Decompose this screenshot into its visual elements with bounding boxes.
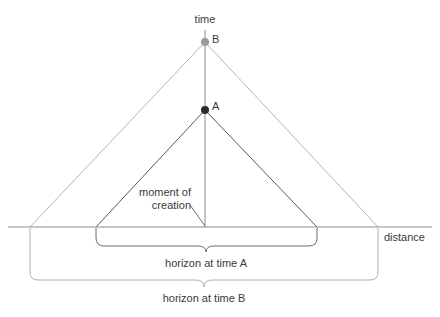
moment-of-creation-annotation: moment of creation	[116, 186, 191, 212]
cone-a-right-edge	[205, 110, 317, 227]
spacetime-horizon-diagram: time distance B A moment of creation hor…	[0, 0, 440, 317]
moment-of-creation-line-2: creation	[116, 199, 191, 212]
point-a-marker	[201, 106, 209, 114]
brace-horizon-time-a	[96, 228, 317, 252]
point-b-label: B	[212, 33, 219, 46]
cone-b-right-edge	[205, 42, 378, 227]
moment-of-creation-leader-line	[190, 205, 205, 226]
light-cone-b	[30, 42, 378, 227]
moment-of-creation-line-1: moment of	[116, 186, 191, 199]
point-b-marker	[201, 38, 209, 46]
distance-axis-label: distance	[384, 231, 425, 244]
horizon-at-time-a-label: horizon at time A	[126, 257, 286, 270]
horizon-at-time-b-label: horizon at time B	[124, 292, 284, 305]
point-a-label: A	[212, 100, 219, 113]
time-axis-label: time	[175, 13, 235, 26]
